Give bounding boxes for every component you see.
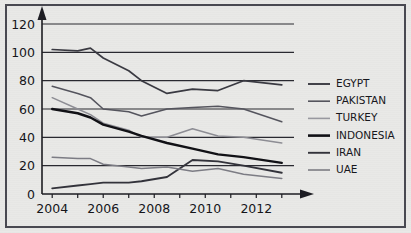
series-line-turkey — [52, 98, 282, 143]
legend-label-pakistan: PAKISTAN — [336, 94, 386, 106]
series-line-egypt — [52, 48, 282, 93]
legend-label-indonesia: INDONESIA — [336, 129, 396, 141]
x-tick-label-2008: 2008 — [138, 201, 170, 216]
y-tick-label-60: 60 — [19, 102, 35, 117]
line-chart: 020406080100120 20042006200820102012 EGY… — [0, 0, 411, 233]
chart-legend: EGYPTPAKISTANTURKEYINDONESIAIRANUAE — [308, 77, 396, 175]
right-arrow-icon — [300, 190, 314, 199]
y-axis-tick-labels: 020406080100120 — [11, 17, 35, 202]
up-arrow-icon — [38, 6, 47, 20]
y-tick-label-120: 120 — [11, 17, 35, 32]
x-tick-label-2004: 2004 — [36, 201, 68, 216]
y-tick-label-80: 80 — [19, 73, 35, 88]
legend-label-turkey: TURKEY — [335, 111, 378, 123]
y-tick-label-40: 40 — [19, 130, 35, 145]
x-axis-tick-labels: 20042006200820102012 — [36, 194, 281, 216]
chart-image-frame: 020406080100120 20042006200820102012 EGY… — [0, 0, 411, 233]
series-line-indonesia — [52, 109, 282, 163]
legend-label-egypt: EGYPT — [336, 77, 370, 89]
x-tick-label-2012: 2012 — [240, 201, 272, 216]
data-series-group — [52, 48, 282, 188]
y-tick-label-0: 0 — [27, 187, 35, 202]
x-tick-label-2010: 2010 — [189, 201, 221, 216]
y-tick-label-20: 20 — [19, 158, 35, 173]
legend-label-iran: IRAN — [336, 146, 361, 158]
y-tick-label-100: 100 — [11, 45, 35, 60]
series-line-uae — [52, 157, 282, 178]
x-tick-label-2006: 2006 — [87, 201, 119, 216]
axes-group — [38, 6, 315, 199]
legend-label-uae: UAE — [336, 163, 358, 175]
